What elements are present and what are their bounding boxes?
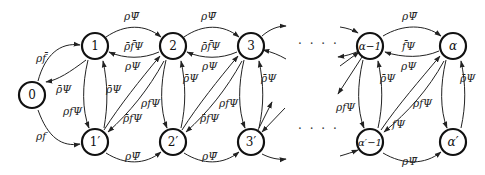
label-a-am1: f̄Ψ xyxy=(401,40,416,52)
state-node-alpha: α xyxy=(440,33,466,59)
svg-text:α′: α′ xyxy=(448,135,459,149)
state-node-3: 3 xyxy=(238,33,264,59)
edge-3-to-2 xyxy=(187,52,237,57)
ellipsis-bottom: · · · · xyxy=(298,122,339,136)
edge-a-to-ap xyxy=(442,60,447,128)
svg-text:2: 2 xyxy=(169,39,177,53)
edge-am1-to-a xyxy=(383,27,441,36)
edge-am1-to-am1p xyxy=(359,60,364,128)
edge-2-to-1 xyxy=(109,52,159,57)
label-1-2: ρΨ̄ xyxy=(123,10,140,22)
edge-in-am1 xyxy=(340,27,358,33)
label-3p-3: ρ̄Ψ xyxy=(260,72,277,84)
edge-2-to-3 xyxy=(184,27,239,37)
svg-text:3: 3 xyxy=(247,39,255,53)
edge-3p-out xyxy=(262,154,286,159)
label-2-2p: ρfΨ xyxy=(140,97,161,109)
state-node-2: 2 xyxy=(160,33,186,59)
label-am1-a: ρΨ̄ xyxy=(401,10,418,22)
label-1-1p: ρfΨ xyxy=(62,105,83,117)
svg-text:1′: 1′ xyxy=(90,135,101,149)
label-2-1: ρ̄f̄Ψ xyxy=(123,40,144,52)
label-1-0: ρ̄Ψ xyxy=(55,83,72,95)
label-1p-2p: ρΨ̄ xyxy=(124,150,141,162)
state-node-1-prime: 1′ xyxy=(82,129,108,155)
label-2-1p: ρ̄fΨ xyxy=(122,112,143,124)
edge-1-to-1p xyxy=(84,60,89,128)
label-2-3: ρΨ̄ xyxy=(200,10,217,22)
edge-in-am1p xyxy=(340,150,358,156)
label-1p-2: ρΨ xyxy=(124,60,141,72)
state-transition-diagram: · · · · · · · · ρf̄ ρ̄Ψ ρf ρfΨ ρ̄Ψ ρΨ̄ ρ… xyxy=(0,0,485,175)
state-node-alpha-prime-minus-1: α′−1 xyxy=(357,129,383,155)
label-a-am1p: fΨ xyxy=(391,118,406,130)
label-a-ap: ρfΨ xyxy=(412,97,433,109)
state-node-2-prime: 2′ xyxy=(160,129,186,155)
state-node-alpha-prime: α′ xyxy=(440,129,466,155)
state-node-1: 1 xyxy=(82,33,108,59)
label-ap-a: ρ̄Ψ xyxy=(459,72,476,84)
label-3-2p: ρ̄fΨ xyxy=(199,112,220,124)
label-2p-2: ρ̄Ψ xyxy=(182,72,199,84)
label-0-1: ρf̄ xyxy=(35,52,49,64)
label-3-3p: ρfΨ xyxy=(218,97,239,109)
svg-text:α′−1: α′−1 xyxy=(358,137,382,148)
svg-text:α: α xyxy=(449,39,457,53)
label-1p-1: ρ̄Ψ xyxy=(105,83,122,95)
label-2p-3: ρΨ xyxy=(201,60,218,72)
edge-3-out xyxy=(262,26,286,36)
label-am1p-ap: ρΨ̄ xyxy=(401,155,418,167)
label-am1p-a: ρΨ xyxy=(400,60,417,72)
edge-1-to-2 xyxy=(106,27,161,37)
state-node-0: 0 xyxy=(19,82,45,108)
edge-2-to-2p xyxy=(162,60,167,128)
edge-3p-in xyxy=(262,108,285,132)
state-node-alpha-minus-1: α−1 xyxy=(357,33,383,59)
label-3-2: ρ̄f̄Ψ xyxy=(200,40,221,52)
label-am1-am1p: ρfΨ xyxy=(335,101,356,113)
label-0-1p: ρf xyxy=(35,130,48,142)
edge-1-to-0 xyxy=(46,60,86,82)
label-2p-3p: ρΨ̄ xyxy=(201,150,218,162)
svg-text:α−1: α−1 xyxy=(359,40,382,52)
svg-text:0: 0 xyxy=(28,88,36,102)
label-am1p-am1: ρ̄Ψ xyxy=(379,72,396,84)
svg-text:2′: 2′ xyxy=(168,135,179,149)
ellipsis-top: · · · · xyxy=(298,37,339,51)
edge-3p-out-up xyxy=(258,102,272,130)
svg-text:3′: 3′ xyxy=(246,135,257,149)
edge-3-to-3p xyxy=(240,60,245,128)
edge-3-in xyxy=(263,50,286,59)
state-node-3-prime: 3′ xyxy=(238,129,264,155)
svg-text:1: 1 xyxy=(91,39,99,53)
